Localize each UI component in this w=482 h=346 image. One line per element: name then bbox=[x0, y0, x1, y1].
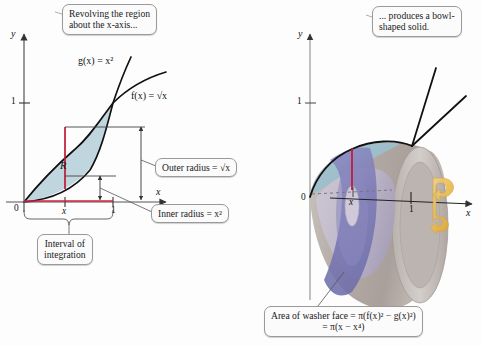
right-y-tick-label-1: 1 bbox=[297, 96, 302, 106]
right-origin-label: 0 bbox=[301, 192, 306, 202]
revolving-callout-leader bbox=[55, 12, 62, 14]
right-x-tick-label-1: 1 bbox=[409, 204, 414, 214]
callout-washer-area-line2: = π(x − x⁴) bbox=[271, 321, 416, 332]
inner-radius-callout-leader bbox=[100, 188, 152, 212]
callout-interval-line2: integration bbox=[44, 249, 86, 260]
curve-label-g: g(x) = x² bbox=[78, 55, 113, 66]
left-origin-label: 0 bbox=[14, 203, 19, 213]
callout-interval-line1: Interval of bbox=[44, 238, 86, 249]
callout-bowl-shaped: ... produces a bowl- shaped solid. bbox=[372, 6, 462, 37]
region-label-R: R bbox=[60, 160, 66, 171]
left-y-tick-label-1: 1 bbox=[11, 96, 16, 106]
left-panel-graphics bbox=[6, 12, 166, 234]
right-x-tick-label-x: x bbox=[349, 197, 353, 207]
callout-outer-radius: Outer radius = √x bbox=[155, 158, 237, 177]
left-x-tick-label-1: 1 bbox=[111, 205, 116, 215]
callout-washer-area: Area of washer face = π(f(x)² − g(x)²) =… bbox=[264, 306, 423, 337]
callout-inner-radius-text: Inner radius = x² bbox=[158, 208, 222, 219]
callout-revolving-line1: Revolving the region bbox=[69, 8, 150, 19]
figure-canvas: Revolving the region about the x-axis...… bbox=[0, 0, 482, 346]
callout-washer-area-line1: Area of washer face = π(f(x)² − g(x)²) bbox=[271, 310, 416, 321]
left-y-axis-label: y bbox=[11, 28, 15, 39]
callout-bowl-line1: ... produces a bowl- bbox=[379, 10, 455, 21]
left-x-tick-label-x: x bbox=[62, 206, 66, 216]
callout-revolving: Revolving the region about the x-axis... bbox=[62, 4, 157, 35]
outer-radius-callout-leader bbox=[141, 160, 156, 166]
curve-label-f: f(x) = √x bbox=[131, 90, 167, 101]
right-y-axis-label: y bbox=[298, 28, 302, 39]
interval-brace bbox=[24, 210, 113, 225]
callout-inner-radius: Inner radius = x² bbox=[151, 204, 229, 223]
callout-revolving-line2: about the x-axis... bbox=[69, 19, 150, 30]
right-panel-graphics bbox=[305, 15, 472, 309]
callout-bowl-line2: shaped solid. bbox=[379, 21, 455, 32]
left-x-axis-label: x bbox=[156, 186, 160, 197]
callout-outer-radius-text: Outer radius = √x bbox=[162, 162, 230, 173]
right-x-axis-label: x bbox=[466, 207, 470, 218]
figure-graphics bbox=[0, 0, 482, 346]
callout-interval-of-integration: Interval of integration bbox=[37, 234, 93, 265]
curve-g-square bbox=[24, 57, 131, 202]
